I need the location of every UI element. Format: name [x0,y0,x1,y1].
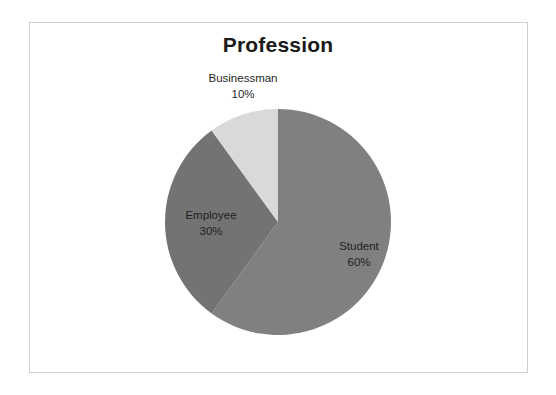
pie-label-student-value: 60% [316,255,402,271]
pie-label-businessman: Businessman 10% [190,71,296,102]
slide-canvas: Profession Businessman 10% Employee 30% … [0,0,556,395]
pie-label-businessman-value: 10% [190,87,296,103]
pie-label-businessman-name: Businessman [190,71,296,87]
pie-label-student: Student 60% [316,239,402,270]
pie-label-employee: Employee 30% [158,208,264,239]
pie-label-employee-name: Employee [158,208,264,224]
pie-label-employee-value: 30% [158,224,264,240]
pie-label-student-name: Student [316,239,402,255]
chart-title: Profession [0,33,556,56]
